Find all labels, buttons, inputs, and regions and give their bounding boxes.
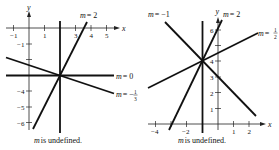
svg-text:6: 6 bbox=[210, 27, 214, 35]
left-y-ticks: −1 −4 −5 −6 bbox=[17, 41, 32, 128]
right-label-undefined: mis undefined. bbox=[178, 136, 226, 145]
right-y-axis-arrow-icon bbox=[216, 17, 220, 23]
right-label-m-neg-1: m= −1 bbox=[148, 10, 170, 19]
left-label-m2: m= 2 bbox=[80, 11, 97, 20]
svg-text:−1: −1 bbox=[17, 41, 25, 49]
right-graph: x y −4 −2 1 2 1 2 3 4 6 bbox=[148, 7, 278, 145]
left-label-undefined: mis undefined. bbox=[34, 136, 82, 145]
left-x-axis-arrow-icon bbox=[114, 26, 120, 30]
right-line-slope-2 bbox=[169, 20, 222, 130]
svg-text:3: 3 bbox=[74, 32, 78, 40]
svg-text:1: 1 bbox=[232, 128, 236, 136]
left-y-axis-label: y bbox=[26, 3, 31, 12]
svg-text:4: 4 bbox=[90, 32, 94, 40]
left-label-m0: m= 0 bbox=[116, 72, 133, 81]
right-label-m-half: m= bbox=[258, 29, 270, 38]
svg-text:2: 2 bbox=[210, 90, 214, 98]
left-fraction-den: 3 bbox=[134, 96, 137, 102]
right-y-axis-label: y bbox=[215, 7, 220, 16]
svg-text:2: 2 bbox=[248, 128, 252, 136]
svg-text:−2: −2 bbox=[182, 128, 190, 136]
left-fraction-num: 1 bbox=[134, 89, 137, 95]
svg-text:−5: −5 bbox=[17, 104, 25, 112]
svg-text:−1: −1 bbox=[10, 32, 18, 40]
svg-text:−6: −6 bbox=[17, 120, 25, 128]
svg-text:5: 5 bbox=[105, 32, 109, 40]
svg-text:1: 1 bbox=[210, 106, 214, 114]
right-x-axis-arrow-icon bbox=[260, 122, 266, 126]
svg-text:4: 4 bbox=[210, 58, 214, 66]
right-x-axis-label: x bbox=[267, 120, 272, 129]
left-label-m-neg-third: m= − bbox=[116, 90, 134, 99]
slope-diagrams: x y −1 1 3 4 5 −1 −4 −5 −6 bbox=[0, 0, 279, 150]
svg-text:−4: −4 bbox=[17, 88, 25, 96]
left-graph: x y −1 1 3 4 5 −1 −4 −5 −6 bbox=[6, 3, 138, 145]
right-fraction-den: 2 bbox=[274, 34, 277, 40]
svg-text:−4: −4 bbox=[151, 128, 159, 136]
svg-text:3: 3 bbox=[210, 74, 214, 82]
right-line-slope-neg-1 bbox=[165, 22, 256, 116]
right-x-ticks: −4 −2 1 2 bbox=[151, 121, 252, 136]
right-fraction-num: 1 bbox=[274, 27, 277, 33]
svg-text:1: 1 bbox=[43, 32, 47, 40]
left-x-axis-label: x bbox=[121, 24, 126, 33]
right-label-m2: m= 2 bbox=[223, 10, 240, 19]
